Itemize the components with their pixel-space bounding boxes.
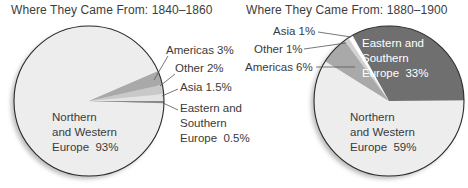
label-americas: Americas 3% xyxy=(166,43,234,58)
label-asia: Asia 1.5% xyxy=(180,80,232,95)
label-northern-western-europe: Northern and Western Europe 93% xyxy=(52,110,119,155)
leader-line xyxy=(318,32,351,37)
label-other: Other 1% xyxy=(254,42,303,57)
pie-chart-1840-1860: Where They Came From: 1840–1860 Americas… xyxy=(0,0,234,188)
leader-line xyxy=(160,74,175,86)
label-americas: Americas 6% xyxy=(245,60,313,75)
pie-chart-1880-1900: Where They Came From: 1880–1900 Asia 1% … xyxy=(234,0,468,188)
pie-graphic xyxy=(234,0,468,188)
label-northern-western-europe: Northern and Western Europe 59% xyxy=(350,110,417,155)
leader-line xyxy=(162,89,178,96)
leader-line xyxy=(163,103,178,110)
label-eastern-southern-europe: Eastern and Southern Europe 33% xyxy=(362,36,429,81)
label-asia: Asia 1% xyxy=(273,24,315,39)
label-other: Other 2% xyxy=(175,61,224,76)
